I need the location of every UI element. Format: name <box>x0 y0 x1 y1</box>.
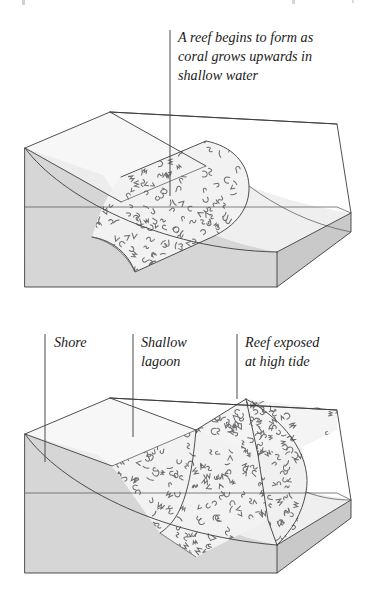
coral-mark <box>252 393 255 400</box>
coral-mark <box>191 412 196 417</box>
coral-mark <box>203 400 208 406</box>
coral-mark <box>259 394 266 402</box>
lower-back-top-edge <box>110 398 337 410</box>
coral-mark <box>211 398 217 403</box>
coral-mark <box>221 400 228 407</box>
annot-reef-forming-text: A reef begins to form as coral grows upw… <box>177 29 317 83</box>
coral-mark <box>203 398 210 405</box>
coral-mark <box>219 394 224 399</box>
coral-mark <box>276 393 284 400</box>
coral-mark <box>319 440 324 444</box>
page-artifact-top <box>22 0 354 5</box>
coral-mark <box>172 141 179 148</box>
coral-mark <box>273 394 278 399</box>
coral-mark <box>216 134 224 141</box>
coral-mark <box>138 402 143 407</box>
coral-mark <box>213 404 219 410</box>
coral-mark <box>157 396 163 402</box>
coral-mark <box>309 393 317 401</box>
annot-line: coral grows upwards in <box>178 48 312 64</box>
coral-mark <box>189 406 194 411</box>
coral-mark <box>265 395 271 400</box>
upper-back-top-edge <box>110 112 337 124</box>
coral-mark <box>285 397 290 402</box>
annot-line: Reef exposed <box>244 334 320 350</box>
coral-mark <box>154 406 160 411</box>
annot-line: Shore <box>54 334 87 350</box>
annot-shallow-lagoon-text: Shallow lagoon <box>141 334 190 369</box>
coral-mark <box>227 394 233 400</box>
coral-mark <box>328 437 336 445</box>
annot-line: A reef begins to form as <box>177 29 314 45</box>
coral-mark <box>197 409 201 414</box>
coral-mark <box>315 403 320 409</box>
coral-mark <box>185 136 191 142</box>
panel-lower: Shore Shallow lagoon Reef exposed at hig… <box>25 334 351 573</box>
coral-mark <box>173 396 178 402</box>
annot-reef-exposed: Reef exposed at high tide <box>237 334 323 399</box>
coral-mark <box>192 419 199 421</box>
coral-mark <box>199 396 203 401</box>
annot-line: Shallow <box>141 334 187 350</box>
coral-mark <box>204 412 210 415</box>
coral-mark <box>270 396 275 401</box>
coral-mark <box>230 398 237 404</box>
annot-line: shallow water <box>178 67 258 83</box>
coral-mark <box>189 420 194 425</box>
coral-mark <box>190 141 197 146</box>
coral-mark <box>190 412 197 418</box>
coral-mark <box>305 447 309 452</box>
coral-mark <box>203 410 210 417</box>
coral-mark <box>232 393 239 399</box>
coral-mark <box>228 139 234 145</box>
coral-mark <box>298 399 303 405</box>
annot-reef-exposed-text: Reef exposed at high tide <box>244 334 323 369</box>
coral-mark <box>148 405 154 409</box>
coral-mark <box>225 140 232 147</box>
coral-mark <box>202 415 206 420</box>
coral-mark <box>185 140 190 145</box>
annot-shore-text: Shore <box>54 334 87 350</box>
coral-reef-diagram: A reef begins to form as coral grows upw… <box>0 0 386 597</box>
annot-line: at high tide <box>245 353 310 369</box>
coral-mark <box>307 468 313 475</box>
coral-mark <box>304 399 307 403</box>
annot-line: lagoon <box>141 353 180 369</box>
figure-root: A reef begins to form as coral grows upw… <box>0 0 386 597</box>
coral-mark <box>199 419 203 423</box>
coral-mark <box>194 409 199 414</box>
panel-upper: A reef begins to form as coral grows upw… <box>25 29 351 287</box>
coral-mark <box>182 143 187 148</box>
coral-mark <box>286 394 290 399</box>
coral-mark <box>322 455 324 459</box>
coral-mark <box>336 447 339 451</box>
